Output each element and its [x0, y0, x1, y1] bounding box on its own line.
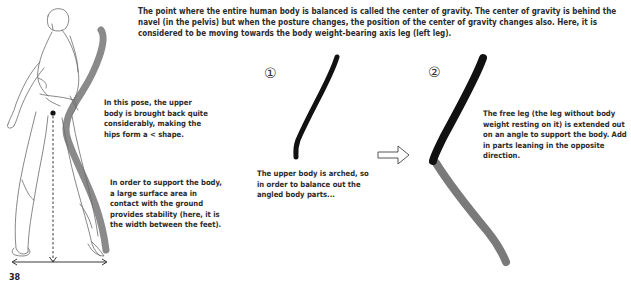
page-number: 38: [9, 273, 20, 282]
next-step-arrow-icon: [378, 146, 409, 164]
step1-number: ①: [264, 65, 277, 81]
pose-note: In this pose, the upper body is brought …: [104, 98, 212, 140]
hip-curve-stroke: [66, 30, 106, 250]
support-note: In order to support the body, a large su…: [110, 178, 222, 231]
step2-free-leg-stroke: [436, 163, 506, 262]
center-of-gravity-dot: [50, 110, 55, 115]
step2-caption: The free leg (the leg without body weigh…: [483, 109, 631, 162]
step2-number: ②: [428, 64, 441, 80]
step1-upper-body-stroke: [296, 57, 337, 157]
step1-caption: The upper body is arched, so in order to…: [257, 169, 377, 201]
intro-paragraph: The point where the entire human body is…: [138, 6, 628, 39]
figure-line-art: [7, 9, 104, 256]
